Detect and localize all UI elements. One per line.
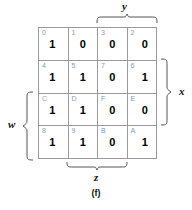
cell-value: 0 (98, 38, 127, 51)
cell-value: 0 (98, 71, 127, 84)
cell-index: B (101, 127, 106, 135)
cell-index: 0 (42, 29, 46, 37)
cell-index: 8 (42, 127, 46, 135)
kmap-grid: 0 1 1 0 3 0 2 0 4 1 5 1 7 0 6 1 (38, 27, 157, 159)
kmap-cell-6[interactable]: 6 1 (128, 61, 158, 94)
cell-index: 9 (72, 127, 76, 135)
kmap-cell-5[interactable]: 5 1 (69, 61, 99, 94)
group-brace-w (22, 91, 34, 161)
cell-index: 1 (72, 29, 76, 37)
kmap-cell-3[interactable]: 3 0 (98, 28, 128, 61)
group-brace-z (66, 161, 128, 171)
kmap-cell-1[interactable]: 1 0 (69, 28, 99, 61)
cell-index: 5 (72, 62, 76, 70)
cell-value: 1 (131, 71, 160, 84)
kmap-cell-7[interactable]: 7 0 (98, 61, 128, 94)
kmap-cell-4[interactable]: 4 1 (39, 61, 69, 94)
group-label-x: x (179, 86, 185, 97)
kmap-cell-f[interactable]: F 0 (98, 94, 128, 127)
cell-index: 4 (42, 62, 46, 70)
kmap-cell-c[interactable]: C 1 (39, 94, 69, 127)
kmap-cell-8[interactable]: 8 1 (39, 126, 69, 159)
kmap-cell-0[interactable]: 0 1 (39, 28, 69, 61)
cell-index: 6 (131, 62, 135, 70)
cell-value: 0 (131, 38, 160, 51)
group-label-z: z (94, 172, 98, 183)
kmap-cell-a[interactable]: A 1 (128, 126, 158, 159)
cell-value: 0 (98, 136, 127, 149)
cell-index: 3 (101, 29, 105, 37)
cell-value: 1 (38, 104, 67, 117)
cell-index: F (101, 95, 105, 103)
cell-value: 1 (69, 136, 98, 149)
karnaugh-map-figure: y 0 1 1 0 3 0 2 0 4 1 5 1 7 0 (0, 0, 192, 210)
kmap-cell-2[interactable]: 2 0 (128, 28, 158, 61)
cell-index: A (131, 127, 136, 135)
cell-value: 0 (69, 38, 98, 51)
cell-value: 0 (98, 104, 127, 117)
cell-index: 2 (131, 29, 135, 37)
kmap-cell-e[interactable]: E 0 (128, 94, 158, 127)
cell-value: 1 (38, 38, 67, 51)
figure-caption: (f) (0, 188, 192, 198)
kmap-cell-b[interactable]: B 0 (98, 126, 128, 159)
group-label-w: w (8, 119, 15, 130)
cell-index: C (42, 95, 47, 103)
group-brace-x (160, 58, 172, 126)
cell-index: D (72, 95, 77, 103)
group-label-y: y (122, 1, 127, 12)
cell-value: 0 (131, 104, 160, 117)
kmap-cell-9[interactable]: 9 1 (69, 126, 99, 159)
cell-value: 1 (69, 104, 98, 117)
cell-index: 7 (101, 62, 105, 70)
cell-value: 1 (131, 136, 160, 149)
group-brace-y (96, 14, 158, 24)
kmap-cell-d[interactable]: D 1 (69, 94, 99, 127)
cell-index: E (131, 95, 136, 103)
cell-value: 1 (38, 71, 67, 84)
cell-value: 1 (69, 71, 98, 84)
cell-value: 1 (38, 136, 67, 149)
